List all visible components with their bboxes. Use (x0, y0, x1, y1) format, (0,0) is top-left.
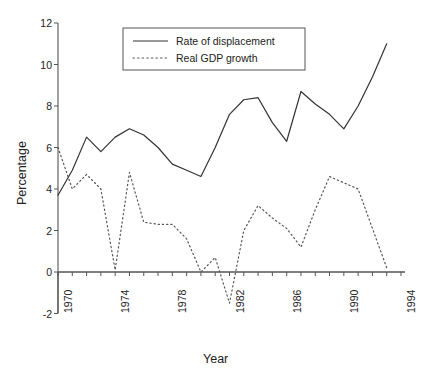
y-tick-label: 12 (24, 18, 52, 29)
y-axis-ticks (54, 23, 58, 314)
x-tick-label: 1994 (406, 290, 417, 313)
legend-label-real-gdp-growth: Real GDP growth (176, 53, 258, 64)
y-tick-label: 2 (24, 226, 52, 237)
x-tick-label: 1970 (63, 290, 74, 313)
y-tick-label: 10 (24, 60, 52, 71)
y-axis-title: Percentage (16, 141, 29, 205)
y-tick-label: -2 (24, 309, 52, 320)
x-tick-label: 1974 (120, 290, 131, 313)
x-axis-title: Year (203, 353, 228, 366)
x-tick-label: 1990 (349, 290, 360, 313)
chart-figure: Rate of displacement Real GDP growth 121… (0, 0, 434, 380)
legend-label-rate-of-displacement: Rate of displacement (176, 36, 275, 47)
x-tick-label: 1978 (177, 290, 188, 313)
data-series-group (58, 44, 387, 303)
series-line-real-gdp-growth (58, 148, 387, 304)
x-tick-label: 1982 (235, 290, 246, 313)
x-tick-label: 1986 (292, 290, 303, 313)
y-tick-label: 8 (24, 101, 52, 112)
y-tick-label: 0 (24, 267, 52, 278)
